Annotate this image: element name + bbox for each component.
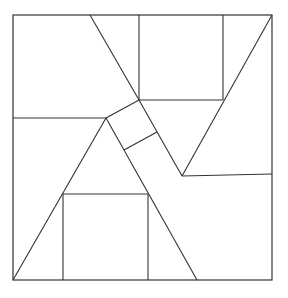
right-slope-line — [106, 118, 197, 280]
dissection-lines — [13, 15, 272, 280]
outer-square — [13, 15, 272, 280]
right-diag-line — [182, 15, 272, 176]
left-slope-line — [13, 118, 106, 280]
small-sq-mid-line — [124, 132, 157, 150]
right-horiz-line — [182, 174, 272, 176]
small-sq-top-line — [106, 100, 139, 118]
top-diag-line — [90, 15, 139, 100]
dissection-diagram — [0, 0, 288, 298]
